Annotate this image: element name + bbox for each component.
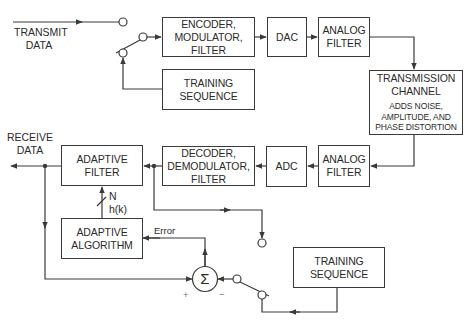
summation-symbol: Σ	[196, 270, 214, 288]
analog-filter-tx-block: ANALOG FILTER	[318, 17, 370, 57]
block-text: AMPLITUDE, AND	[375, 112, 457, 123]
analog-filter-rx-block: ANALOG FILTER	[318, 145, 370, 187]
block-text: MODULATOR,	[174, 31, 242, 44]
minus-sign: −	[219, 288, 225, 301]
block-text: SEQUENCE	[310, 268, 368, 281]
receive-label-line2: DATA	[4, 144, 56, 157]
transmission-channel-block: TRANSMISSION CHANNEL ADDS NOISE, AMPLITU…	[369, 70, 463, 135]
decoder-demodulator-filter-block: DECODER, DEMODULATOR, FILTER	[162, 146, 255, 186]
encoder-modulator-filter-block: ENCODER, MODULATOR, FILTER	[162, 17, 255, 57]
block-text: SEQUENCE	[179, 90, 237, 103]
block-text: DEMODULATOR,	[167, 160, 249, 173]
block-text: DAC	[276, 31, 298, 44]
adc-block: ADC	[266, 146, 307, 187]
block-text: ANALOG	[322, 24, 365, 37]
block-text: CHANNEL	[391, 85, 440, 98]
receive-label-line1: RECEIVE	[4, 131, 56, 144]
block-text: FILTER	[191, 44, 226, 57]
dac-block: DAC	[267, 17, 307, 57]
block-text: TRANSMISSION	[377, 72, 456, 85]
block-text: ADAPTIVE	[76, 226, 127, 239]
channel-note: ADDS NOISE, AMPLITUDE, AND PHASE DISTORT…	[375, 101, 457, 133]
block-text: DECODER,	[181, 147, 236, 160]
block-text: ENCODER,	[181, 18, 236, 31]
block-text: ADC	[276, 160, 298, 173]
block-text: FILTER	[327, 37, 362, 50]
block-text: FILTER	[327, 166, 362, 179]
transmit-label-line2: DATA	[14, 39, 64, 52]
block-text: ADDS NOISE,	[375, 101, 457, 112]
block-text: ANALOG	[322, 153, 365, 166]
block-text: TRAINING	[314, 255, 363, 268]
block-text: FILTER	[191, 173, 226, 186]
training-sequence-rx-block: TRAINING SEQUENCE	[293, 247, 385, 288]
block-text: FILTER	[85, 166, 120, 179]
training-sequence-tx-block: TRAINING SEQUENCE	[162, 69, 255, 110]
block-text: ADAPTIVE	[76, 153, 127, 166]
adaptive-algorithm-block: ADAPTIVE ALGORITHM	[61, 218, 143, 259]
adaptive-filter-block: ADAPTIVE FILTER	[61, 145, 143, 186]
block-text: TRAINING	[184, 77, 233, 90]
plus-sign: +	[183, 288, 189, 301]
receive-data-label: RECEIVE DATA	[4, 131, 56, 157]
transmit-data-label: TRANSMIT DATA	[14, 26, 64, 52]
block-text: ALGORITHM	[71, 239, 133, 252]
error-label: Error	[154, 224, 175, 237]
tap-count-label: N	[109, 190, 117, 203]
transmit-label-line1: TRANSMIT	[14, 26, 64, 39]
block-text: PHASE DISTORTION	[375, 122, 457, 133]
coefficients-label: h(k)	[109, 203, 127, 216]
